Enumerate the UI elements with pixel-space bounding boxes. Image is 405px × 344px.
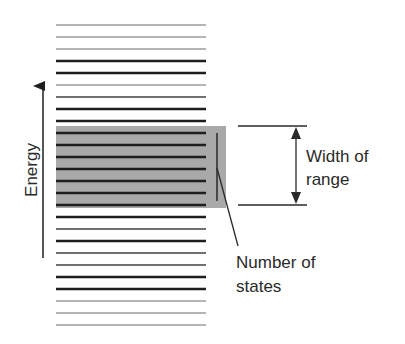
energy-axis-label: Energy — [22, 143, 41, 197]
range-arrow-down-icon — [291, 192, 301, 204]
energy-levels-diagram: Energy Width of range Number of states — [0, 0, 405, 344]
states-label-line1: Number of — [236, 253, 316, 272]
width-range-label-line1: Width of — [306, 147, 369, 166]
range-arrow-up-icon — [291, 127, 301, 139]
states-label-line2: states — [236, 277, 281, 296]
width-range-label-line2: range — [306, 170, 349, 189]
energy-range-highlight — [56, 126, 226, 208]
